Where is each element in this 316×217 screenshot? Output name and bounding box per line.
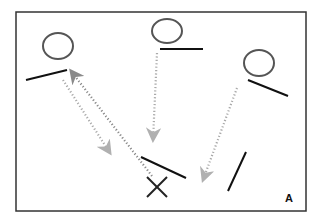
dotted-arrow-4 — [71, 71, 152, 176]
line-segment-4 — [141, 157, 186, 178]
dotted-arrow-1 — [63, 80, 110, 153]
circle-3 — [244, 50, 274, 76]
line-segment-5 — [228, 152, 246, 191]
dotted-arrow-3 — [203, 88, 237, 180]
line-segment-1 — [26, 70, 67, 80]
diagram-canvas — [0, 0, 316, 217]
circle-2 — [152, 19, 182, 43]
cross-icon — [147, 177, 167, 197]
panel-label: A — [285, 192, 293, 204]
dotted-arrow-2 — [153, 53, 157, 140]
line-segment-3 — [248, 80, 288, 96]
circle-1 — [43, 33, 73, 59]
circles-group — [43, 19, 274, 76]
